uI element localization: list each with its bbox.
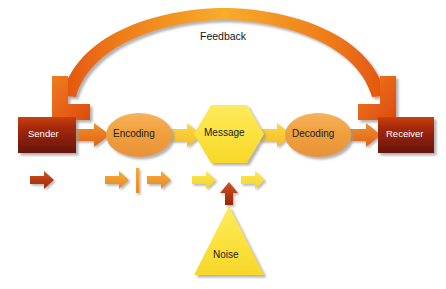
diagram-graphics [0,0,446,289]
node-message-shape[interactable] [194,105,264,163]
connector-decoding-to-receiver [348,123,381,147]
accent-marker-1 [30,171,54,189]
feedback-arc-group [52,8,396,120]
node-noise-shape[interactable] [194,206,264,275]
node-sender-shape[interactable] [18,117,76,153]
accent-marker-noise-up [220,182,238,205]
diagram-canvas: Feedback Sender Encoding Message Decodin… [0,0,446,289]
accent-marker-2 [105,171,129,189]
accent-marker-bar [136,168,139,193]
node-receiver-shape[interactable] [378,117,434,153]
feedback-arc-band [62,8,386,97]
accent-marker-4 [192,171,216,189]
accent-marker-3 [147,171,171,189]
accent-marker-5 [241,171,265,189]
node-encoding-shape[interactable] [106,113,172,157]
node-decoding-shape[interactable] [285,113,351,157]
connector-sender-to-encoding [74,123,110,147]
